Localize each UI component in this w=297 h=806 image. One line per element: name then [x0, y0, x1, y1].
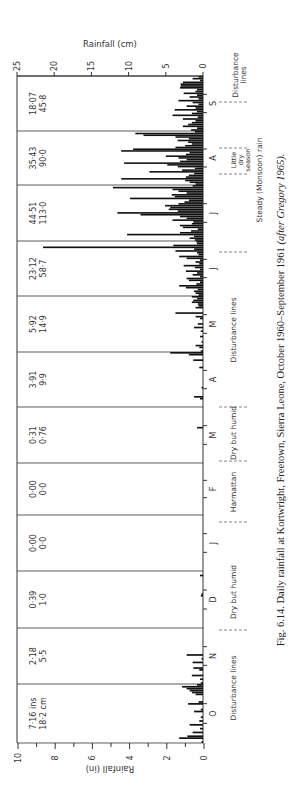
daily-rainfall-bar: [183, 118, 203, 120]
daily-rainfall-bar: [172, 219, 203, 221]
daily-rainfall-bar: [121, 150, 203, 152]
daily-rainfall-bar: [196, 241, 203, 243]
month-letter: N: [209, 653, 218, 659]
daily-rainfall-bar: [175, 312, 203, 314]
month-letter: S: [209, 101, 218, 106]
daily-rainfall-bar: [200, 259, 203, 261]
daily-rainfall-bar: [197, 94, 203, 96]
daily-rainfall-bar: [188, 703, 203, 705]
daily-rainfall-bar: [202, 387, 203, 389]
daily-rainfall-bar: [170, 207, 203, 209]
daily-rainfall-bar: [199, 294, 203, 296]
in-axis-label: Rainfall (in): [86, 764, 135, 774]
daily-rainfall-bar: [175, 196, 203, 198]
monthly-total: 23·1258·7: [29, 257, 48, 280]
monthly-total: 0·000·0: [29, 534, 48, 552]
total-cm: 45·8: [39, 95, 48, 113]
daily-rainfall-bar: [175, 109, 203, 111]
total-inches: 0·00: [29, 480, 38, 498]
daily-rainfall-bar: [196, 307, 203, 309]
daily-rainfall-bar: [199, 98, 203, 100]
month-letter: M: [209, 431, 218, 438]
total-inches: 0·39: [29, 591, 38, 609]
daily-rainfall-bar: [189, 199, 203, 201]
daily-rainfall-bar: [197, 272, 203, 274]
monthly-total: 0·310·76: [29, 426, 48, 444]
daily-rainfall-bar: [196, 91, 203, 93]
daily-rainfall-bar: [190, 237, 203, 239]
daily-rainfall-bar: [201, 716, 203, 718]
daily-rainfall-bar: [193, 78, 203, 80]
daily-rainfall-bar: [193, 662, 203, 664]
daily-rainfall-bar: [202, 593, 203, 595]
caption-citation: (after Gregory 1965).: [275, 154, 287, 245]
daily-rainfall-bar: [201, 682, 203, 684]
daily-rainfall-bar: [192, 122, 203, 124]
daily-rainfall-bar: [186, 176, 203, 178]
daily-rainfall-bar: [180, 87, 203, 89]
daily-rainfall-bar: [196, 183, 203, 185]
daily-rainfall-bar: [113, 187, 203, 189]
monthly-total: 2·185·5: [29, 647, 48, 665]
daily-rainfall-bar: [202, 341, 203, 343]
daily-rainfall-bar: [187, 218, 203, 220]
total-inches: 3·91: [29, 371, 38, 389]
daily-rainfall-bar: [198, 323, 203, 325]
daily-rainfall-bar: [179, 737, 203, 739]
daily-rainfall-bar: [197, 127, 203, 129]
rainfall-chart-svg: 2520151050Rainfall (cm)1086420Rainfall (…: [0, 0, 297, 806]
cm-axis-label: Rainfall (cm): [83, 39, 137, 49]
daily-rainfall-bar: [200, 80, 203, 82]
total-inches: 2·18: [29, 647, 38, 665]
daily-rainfall-bar: [189, 138, 203, 140]
daily-rainfall-bar: [184, 93, 203, 95]
daily-rainfall-bars: [43, 76, 203, 743]
cm-tick-label: 20: [50, 61, 59, 71]
daily-rainfall-bar: [187, 258, 203, 260]
month-letter: O: [209, 710, 218, 716]
daily-rainfall-bar: [200, 276, 203, 278]
daily-rainfall-bar: [200, 269, 203, 271]
daily-rainfall-bar: [191, 129, 203, 131]
daily-rainfall-bar: [135, 133, 203, 135]
total-inches: 0·00: [29, 534, 38, 552]
daily-rainfall-bar: [187, 654, 203, 656]
daily-rainfall-bar: [196, 107, 203, 109]
total-cm: 9·9: [39, 373, 48, 386]
daily-rainfall-bar: [170, 352, 203, 354]
daily-rainfall-bar: [199, 669, 203, 671]
caption-text: Fig. 6.14. Daily rainfall at Kortwright,…: [275, 245, 286, 647]
daily-rainfall-bar: [195, 168, 203, 170]
daily-rainfall-bar: [195, 239, 203, 241]
daily-rainfall-bar: [199, 263, 203, 265]
daily-rainfall-bar: [183, 126, 203, 128]
total-cm: 1·0: [39, 593, 48, 606]
daily-rainfall-bar: [175, 136, 203, 138]
monthly-total: 7·16 ins18·2 cm: [29, 697, 48, 730]
daily-rainfall-bar: [202, 741, 203, 743]
daily-rainfall-bar: [196, 345, 203, 347]
daily-rainfall-bar: [187, 735, 203, 737]
daily-rainfall-bar: [198, 116, 203, 118]
daily-rainfall-bar: [192, 675, 203, 677]
daily-rainfall-bar: [182, 169, 203, 171]
daily-rainfall-bar: [195, 131, 203, 133]
cm-tick-label: 15: [87, 61, 96, 71]
in-tick-label: 4: [126, 755, 135, 760]
daily-rainfall-bar: [190, 724, 203, 726]
total-inches: 5·92: [29, 315, 38, 333]
daily-rainfall-bar: [194, 396, 203, 398]
month-letter: D: [209, 596, 218, 602]
monthly-total: 44·51113·0: [29, 202, 48, 225]
daily-rainfall-bar: [183, 227, 203, 229]
total-cm: 90·0: [39, 149, 48, 167]
daily-rainfall-bar: [185, 145, 203, 147]
season-label: Disturbancelines: [231, 52, 248, 98]
daily-rainfall-bar: [195, 267, 203, 269]
total-inches: 35·43: [29, 147, 38, 170]
daily-rainfall-bar: [188, 141, 203, 143]
in-tick-label: 6: [88, 755, 97, 760]
daily-rainfall-bar: [199, 254, 203, 256]
month-letter: M: [209, 320, 218, 327]
daily-rainfall-bar: [181, 83, 203, 85]
